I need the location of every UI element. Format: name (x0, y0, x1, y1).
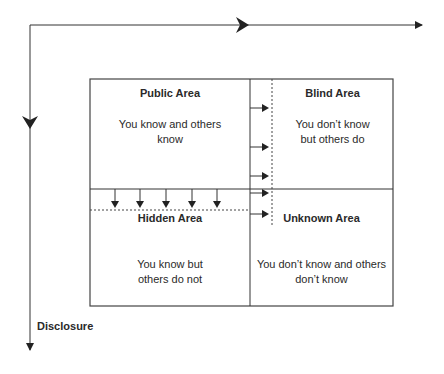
unknown-area-desc-line2: don’t know (250, 272, 393, 287)
blind-area-desc-line2: but others do (272, 132, 393, 147)
hidden-area-title: Hidden Area (90, 211, 250, 226)
vertical-axis (22, 25, 38, 350)
right-arrows (250, 104, 269, 218)
public-area-title: Public Area (90, 86, 250, 101)
unknown-area-desc-line1: You don’t know and others (250, 257, 393, 272)
hidden-area-desc-line2: others do not (90, 272, 250, 287)
public-area-desc-line2: know (90, 132, 250, 147)
public-area-desc-line1: You know and others (90, 117, 250, 132)
blind-area-title: Blind Area (272, 86, 393, 101)
unknown-area-title: Unknown Area (250, 211, 393, 226)
horizontal-axis (30, 17, 422, 33)
down-arrows (111, 189, 221, 208)
hidden-area-desc-line1: You know but (90, 257, 250, 272)
diagram-lines (0, 0, 444, 374)
disclosure-axis-label: Disclosure (37, 319, 93, 334)
blind-area-desc-line1: You don’t know (272, 117, 393, 132)
